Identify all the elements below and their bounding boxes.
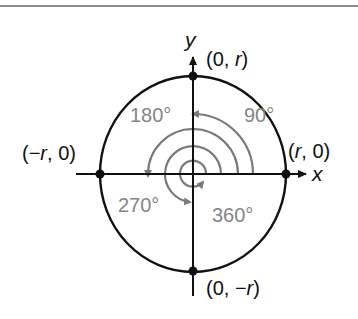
point-left-label: (−r, 0) xyxy=(22,142,76,164)
point-bottom-dot xyxy=(189,267,198,276)
angle-label-180: 180° xyxy=(130,104,171,126)
point-right-label: (r, 0) xyxy=(288,140,330,162)
point-bottom-label: (0, −r) xyxy=(206,277,260,299)
x-axis-label: x xyxy=(311,162,324,185)
diagram-canvas: y x (0, r) (0, −r) (−r, 0) (r, 0) 90° 18… xyxy=(0,0,358,319)
y-axis-label: y xyxy=(183,28,197,51)
angle-arcs xyxy=(148,114,253,202)
angle-label-360: 360° xyxy=(212,204,253,226)
point-top-label: (0, r) xyxy=(206,48,248,70)
point-left-dot xyxy=(96,170,105,179)
angle-label-270: 270° xyxy=(118,194,159,216)
angle-label-90: 90° xyxy=(244,104,274,126)
unit-circle-figure: y x (0, r) (0, −r) (−r, 0) (r, 0) 90° 18… xyxy=(0,0,358,319)
point-right-dot xyxy=(282,170,291,179)
point-top-dot xyxy=(189,72,198,81)
